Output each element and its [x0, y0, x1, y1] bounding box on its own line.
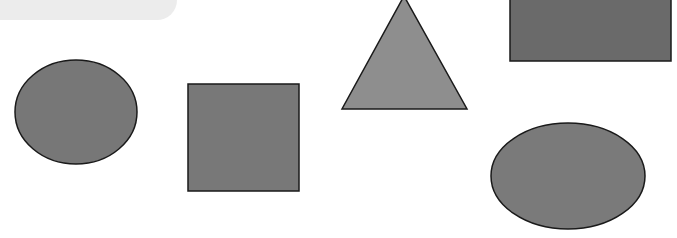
- ellipse-shape[interactable]: [491, 123, 645, 229]
- shapes-canvas: [0, 0, 677, 238]
- square-shape[interactable]: [188, 84, 299, 191]
- triangle-shape[interactable]: [342, 0, 467, 109]
- rectangle-shape[interactable]: [510, 0, 671, 61]
- circle-shape[interactable]: [15, 60, 137, 164]
